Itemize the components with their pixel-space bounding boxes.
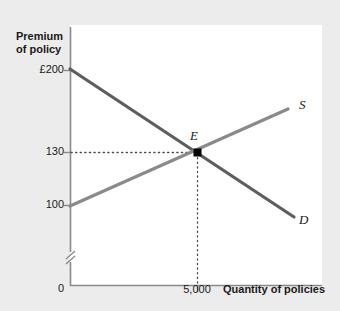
y-tick-label-100: 100 [18,198,64,210]
x-axis-title: Quantity of policies [223,283,325,296]
equilibrium-point-marker [194,149,202,157]
equilibrium-point-label: E [190,128,198,144]
x-tick-label-5000: 5,000 [168,283,226,295]
y-axis-title-line2: of policy [16,43,63,56]
y-axis-title-line1: Premium [16,30,63,43]
y-tick-label-130: 130 [18,145,64,157]
y-axis-title: Premium of policy [16,30,63,56]
y-tick-label-0: 0 [18,282,64,294]
supply-curve-label: S [299,97,306,113]
demand-curve [70,69,294,217]
economics-supply-demand-chart: Premium of policy Quantity of policies £… [0,0,340,311]
demand-curve-label: D [299,212,308,228]
y-tick-label-200: £200 [18,63,64,75]
